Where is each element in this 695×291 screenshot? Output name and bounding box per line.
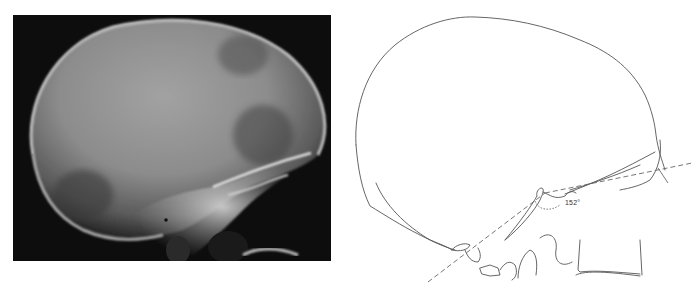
skull-radiograph <box>13 15 331 261</box>
radiograph-image <box>13 15 331 261</box>
tracing-drawing <box>340 0 695 291</box>
angle-label: 152° <box>565 199 580 206</box>
skull-tracing: 152° <box>340 0 695 291</box>
